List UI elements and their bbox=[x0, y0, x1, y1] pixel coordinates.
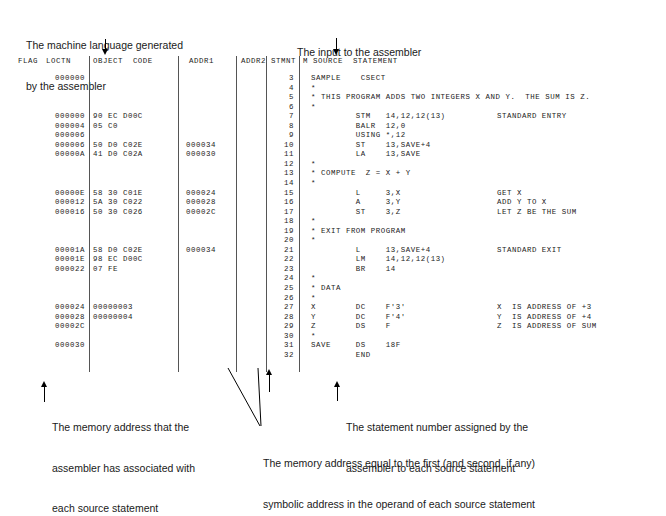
cell-loctn: 000000 bbox=[43, 74, 85, 84]
listing-row: 00000E58 30 C01E00002415 L 3,XGET X bbox=[0, 189, 666, 199]
listing-row: 5* THIS PROGRAM ADDS TWO INTEGERS X AND … bbox=[0, 93, 666, 103]
cell-stmnt: 16 bbox=[272, 198, 294, 208]
cell-stmnt: 14 bbox=[272, 179, 294, 189]
cell-stmnt: 23 bbox=[272, 265, 294, 275]
cell-loctn: 000000 bbox=[43, 112, 85, 122]
cell-comment: STANDARD ENTRY bbox=[497, 112, 567, 122]
cell-stmnt: 9 bbox=[272, 131, 294, 141]
cell-object-code: 90 EC D00C bbox=[93, 112, 143, 122]
cell-loctn: 000028 bbox=[43, 313, 85, 323]
listing-row: 0000125A 30 C02200002816 A 3,YADD Y TO X bbox=[0, 198, 666, 208]
header-loctn: LOCTN bbox=[46, 57, 71, 67]
cell-object-code: 98 EC D00C bbox=[93, 255, 143, 265]
cell-addr1: 000024 bbox=[186, 189, 216, 199]
listing-row: 24* bbox=[0, 274, 666, 284]
listing-row: 26* bbox=[0, 294, 666, 304]
cell-object-code: 58 30 C01E bbox=[93, 189, 143, 199]
listing-row: 00000650 D0 C02E00003410 ST 13,SAVE+4 bbox=[0, 141, 666, 151]
annotation-addr-operand-line1: The memory address equal to the first (a… bbox=[263, 457, 535, 471]
cell-source-statement: L 13,SAVE+4 bbox=[311, 246, 431, 256]
cell-source-statement: * bbox=[311, 236, 316, 246]
cell-object-code: 50 D0 C02E bbox=[93, 141, 143, 151]
cell-loctn: 00002C bbox=[43, 322, 85, 332]
cell-source-statement: * bbox=[311, 332, 316, 342]
listing-row: 0000280000000428Y DC F'4'Y IS ADDRESS OF… bbox=[0, 313, 666, 323]
cell-loctn: 000012 bbox=[43, 198, 85, 208]
cell-source-statement: * bbox=[311, 294, 316, 304]
header-source-statement: SOURCE STATEMENT bbox=[313, 57, 398, 67]
cell-loctn: 000006 bbox=[43, 141, 85, 151]
header-m: M bbox=[303, 57, 308, 67]
listing-row: 00003031SAVE DS 18F bbox=[0, 341, 666, 351]
cell-object-code: 41 D0 C02A bbox=[93, 150, 143, 160]
arrow-shaft-stmnt bbox=[337, 386, 338, 401]
cell-stmnt: 21 bbox=[272, 246, 294, 256]
cell-comment: STANDARD EXIT bbox=[497, 246, 562, 256]
annotation-memory-address-loctn-line2: assembler has associated with bbox=[52, 462, 195, 476]
cell-stmnt: 13 bbox=[272, 169, 294, 179]
cell-loctn: 00000E bbox=[43, 189, 85, 199]
cell-comment: Z IS ADDRESS OF SUM bbox=[497, 322, 597, 332]
annotation-memory-address-loctn-line1: The memory address that the bbox=[52, 421, 195, 435]
cell-source-statement: Z DS F bbox=[311, 322, 391, 332]
cell-object-code: 00000003 bbox=[93, 303, 133, 313]
cell-addr1: 000034 bbox=[186, 141, 216, 151]
cell-source-statement: SAMPLE CSECT bbox=[311, 74, 386, 84]
listing-row: 00001E98 EC D00C22 LM 14,12,12(13) bbox=[0, 255, 666, 265]
header-stmnt: STMNT bbox=[271, 57, 296, 67]
cell-source-statement: X DC F'3' bbox=[311, 303, 406, 313]
assembler-listing: FLAG LOCTN OBJECT CODE ADDR1 ADDR2 STMNT… bbox=[0, 56, 666, 161]
cell-object-code: 50 30 C026 bbox=[93, 208, 143, 218]
listing-row: 0000069 USING *,12 bbox=[0, 131, 666, 141]
header-addr2: ADDR2 bbox=[241, 57, 266, 67]
cell-source-statement: * bbox=[311, 84, 316, 94]
cell-stmnt: 10 bbox=[272, 141, 294, 151]
listing-row: 00001650 30 C02600002C17 ST 3,ZLET Z BE … bbox=[0, 208, 666, 218]
cell-stmnt: 3 bbox=[272, 74, 294, 84]
cell-source-statement: * bbox=[311, 160, 316, 170]
listing-row: 32 END bbox=[0, 351, 666, 361]
cell-addr1: 000030 bbox=[186, 150, 216, 160]
cell-source-statement: * THIS PROGRAM ADDS TWO INTEGERS X AND Y… bbox=[311, 93, 590, 103]
cell-stmnt: 31 bbox=[272, 341, 294, 351]
listing-row: 00000405 C08 BALR 12,0 bbox=[0, 122, 666, 132]
cell-stmnt: 5 bbox=[272, 93, 294, 103]
cell-stmnt: 22 bbox=[272, 255, 294, 265]
arrow-head-input-to-assembler bbox=[333, 49, 339, 55]
cell-loctn: 000030 bbox=[43, 341, 85, 351]
cell-stmnt: 28 bbox=[272, 313, 294, 323]
arrow-head-addr2 bbox=[266, 369, 272, 375]
cell-source-statement: LM 14,12,12(13) bbox=[311, 255, 446, 265]
cell-loctn: 00000A bbox=[43, 150, 85, 160]
listing-rows: 0000003SAMPLE CSECT4*5* THIS PROGRAM ADD… bbox=[0, 74, 666, 360]
listing-row: 00002C29Z DS FZ IS ADDRESS OF SUM bbox=[0, 322, 666, 332]
listing-row: 18* bbox=[0, 217, 666, 227]
listing-row: 19* EXIT FROM PROGRAM bbox=[0, 227, 666, 237]
cell-source-statement: * COMPUTE Z = X + Y bbox=[311, 169, 411, 179]
cell-stmnt: 11 bbox=[272, 150, 294, 160]
cell-stmnt: 24 bbox=[272, 274, 294, 284]
cell-stmnt: 20 bbox=[272, 236, 294, 246]
cell-loctn: 000016 bbox=[43, 208, 85, 218]
cell-stmnt: 32 bbox=[272, 351, 294, 361]
cell-source-statement: SAVE DS 18F bbox=[311, 341, 401, 351]
cell-stmnt: 29 bbox=[272, 322, 294, 332]
cell-comment: ADD Y TO X bbox=[497, 198, 547, 208]
annotation-addr-operand: The memory address equal to the first (a… bbox=[263, 430, 535, 516]
cell-source-statement: * EXIT FROM PROGRAM bbox=[311, 227, 406, 237]
cell-source-statement: A 3,Y bbox=[311, 198, 401, 208]
cell-object-code: 00000004 bbox=[93, 313, 133, 323]
cell-stmnt: 6 bbox=[272, 103, 294, 113]
cell-object-code: 05 C0 bbox=[93, 122, 118, 132]
cell-loctn: 00001A bbox=[43, 246, 85, 256]
cell-addr1: 00002C bbox=[186, 208, 216, 218]
arrow-head-machine-language bbox=[102, 49, 108, 55]
cell-source-statement: USING *,12 bbox=[311, 131, 406, 141]
cell-stmnt: 8 bbox=[272, 122, 294, 132]
cell-loctn: 000006 bbox=[43, 131, 85, 141]
listing-row: 00000A41 D0 C02A00003011 LA 13,SAVE bbox=[0, 150, 666, 160]
listing-row: 20* bbox=[0, 236, 666, 246]
cell-source-statement: * bbox=[311, 217, 316, 227]
cell-comment: LET Z BE THE SUM bbox=[497, 208, 577, 218]
